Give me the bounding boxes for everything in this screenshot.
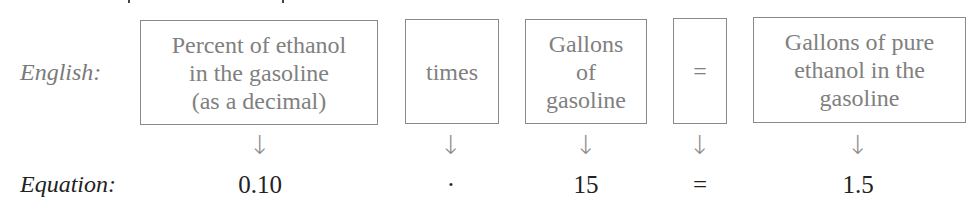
down-arrow-icon: ↓ [575,132,597,158]
equation-term-equals: = [693,172,707,197]
equation-term-times-dot: · [447,172,455,197]
gallons-pure-ethanol-text: Gallons of pure ethanol in the gasoline [785,28,934,112]
gallons-gasoline-text: Gallons of gasoline [546,30,626,114]
cropped-glyph-descender [282,0,284,3]
equation-term-result: 1.5 [842,172,873,197]
cropped-glyph-descender [128,0,130,3]
times-text: times [426,58,478,86]
equals-text: = [693,57,707,85]
english-row-label: English: [20,60,101,84]
down-arrow-icon: ↓ [440,132,462,158]
gallons-gasoline-box: Gallons of gasoline [525,19,647,124]
down-arrow-icon: ↓ [689,132,711,158]
equation-term-gallons: 15 [574,172,599,197]
cropped-text-line [0,0,980,10]
equation-term-percent: 0.10 [238,172,282,197]
equals-box: = [673,18,727,124]
down-arrow-icon: ↓ [847,132,869,158]
gallons-pure-ethanol-box: Gallons of pure ethanol in the gasoline [753,17,966,123]
equation-row-label: Equation: [20,172,116,196]
down-arrow-icon: ↓ [249,132,271,158]
percent-ethanol-box: Percent of ethanol in the gasoline (as a… [140,20,378,125]
percent-ethanol-text: Percent of ethanol in the gasoline (as a… [172,31,347,115]
times-box: times [405,19,499,124]
